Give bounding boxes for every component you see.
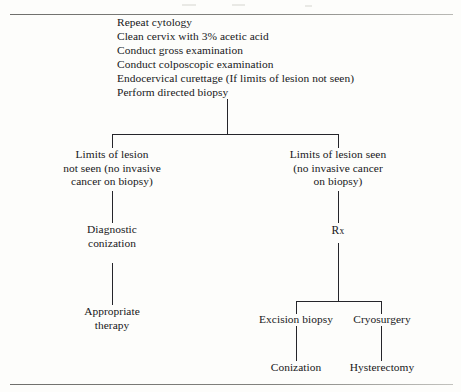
connector-trunk-main [227,99,228,135]
connector-drop-left-branch [112,134,113,148]
node-appropriate-therapy: Appropriate therapy [84,305,140,332]
connector-conization-to-therapy [112,263,113,305]
node-right-branch: Limits of lesion seen (no invasive cance… [290,148,386,189]
instruction-step: Conduct gross examination [117,43,354,57]
scan-smudge [182,4,196,6]
node-cryosurgery: Cryosurgery [353,313,410,327]
connector-rx-to-split [338,243,339,302]
node-line: conization [87,237,137,251]
node-line: therapy [84,319,140,333]
connector-cryo-to-hysterectomy [381,326,382,361]
node-line: Conization [271,361,321,375]
node-diagnostic-conization: Diagnostic conization [87,223,137,250]
instruction-step: Repeat cytology [117,15,354,29]
node-line: not seen (no invasive [63,162,161,176]
node-line: Limits of lesion [63,148,161,162]
scan-smudge [305,5,312,7]
node-line: Appropriate [84,305,140,319]
connector-drop-right-branch [338,134,339,148]
connector-excision-to-conization [296,326,297,361]
node-hysterectomy: Hysterectomy [350,361,415,375]
instruction-step: Perform directed biopsy [117,85,354,99]
instruction-step: Conduct colposcopic examination [117,57,354,71]
scan-smudge [232,4,245,6]
connector-split-top [112,134,339,135]
node-line: Limits of lesion seen [290,148,386,162]
figure-page: Repeat cytology Clean cervix with 3% ace… [0,0,461,392]
connector-right-to-rx [338,191,339,223]
rx-lead: R [331,224,339,237]
node-left-branch: Limits of lesion not seen (no invasive c… [63,148,161,189]
connector-left-to-conization [112,191,113,223]
connector-split-rx [296,301,381,302]
node-line: Excision biopsy [259,313,333,327]
rx-trail: x [340,226,345,236]
bottom-page-rule [10,384,453,385]
node-excision-biopsy: Excision biopsy [259,313,333,327]
instruction-list: Repeat cytology Clean cervix with 3% ace… [117,15,354,100]
node-line: on biopsy) [290,175,386,189]
node-line: cancer on biopsy) [63,175,161,189]
node-rx: Rx [331,224,344,239]
node-line: Hysterectomy [350,361,415,375]
node-line: Cryosurgery [353,313,410,327]
node-conization: Conization [271,361,321,375]
node-line: (no invasive cancer [290,162,386,176]
node-line: Rx [331,224,344,239]
instruction-step: Endocervical curettage (If limits of les… [117,71,354,85]
instruction-step: Clean cervix with 3% acetic acid [117,29,354,43]
node-line: Diagnostic [87,223,137,237]
